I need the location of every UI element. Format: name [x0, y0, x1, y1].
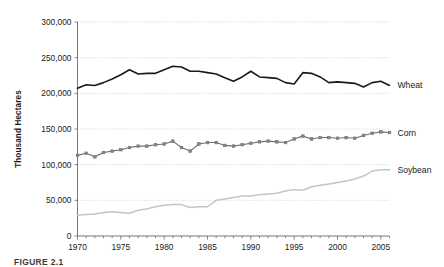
series-marker-corn-2004	[371, 132, 374, 135]
series-marker-corn-1992	[267, 140, 270, 143]
series-marker-corn-1988	[232, 145, 235, 148]
series-marker-corn-1999	[328, 136, 331, 139]
series-marker-corn-1995	[293, 138, 296, 141]
series-marker-corn-2005	[380, 131, 383, 134]
series-label-corn: Corn	[398, 128, 417, 138]
series-marker-corn-2003	[362, 134, 365, 137]
series-label-wheat: Wheat	[398, 80, 423, 90]
x-tick-label-1970: 1970	[68, 242, 87, 252]
series-marker-corn-2000	[336, 137, 339, 140]
series-label-soybean: Soybean	[398, 165, 432, 175]
series-marker-corn-1989	[241, 143, 244, 146]
series-marker-corn-1974	[111, 150, 114, 153]
series-marker-corn-1985	[206, 141, 209, 144]
series-marker-corn-1986	[215, 141, 218, 144]
series-marker-corn-1997	[310, 138, 313, 141]
x-tick-label-1975: 1975	[112, 242, 131, 252]
series-marker-corn-1973	[102, 151, 105, 154]
series-marker-corn-1998	[319, 136, 322, 139]
series-marker-corn-1994	[284, 141, 287, 144]
series-marker-corn-1975	[120, 148, 123, 151]
x-tick-label-2005: 2005	[372, 242, 391, 252]
series-marker-corn-1991	[258, 141, 261, 144]
series-marker-corn-1987	[224, 144, 227, 147]
y-tick-label-100000: 100,000	[41, 160, 72, 170]
y-axis-title: Thousand Hectares	[14, 90, 23, 168]
x-tick-label-1990: 1990	[242, 242, 261, 252]
series-marker-corn-1978	[146, 145, 149, 148]
series-marker-corn-1993	[276, 141, 279, 144]
series-marker-corn-2001	[345, 136, 348, 139]
series-marker-corn-1970	[76, 154, 79, 157]
series-marker-corn-1981	[172, 140, 175, 143]
x-tick-label-1980: 1980	[155, 242, 174, 252]
y-tick-label-150000: 150,000	[41, 124, 72, 134]
figure-container: 050,000100,000150,000200,000250,000300,0…	[0, 0, 444, 267]
series-marker-corn-1971	[85, 152, 88, 155]
y-tick-label-250000: 250,000	[41, 53, 72, 63]
y-tick-label-0: 0	[67, 231, 72, 241]
series-marker-corn-1976	[128, 146, 131, 149]
series-marker-corn-1980	[163, 143, 166, 146]
series-marker-corn-2002	[354, 137, 357, 140]
series-marker-corn-1982	[180, 146, 183, 149]
figure-caption: FIGURE 2.1	[14, 257, 64, 267]
series-marker-corn-1972	[94, 156, 97, 159]
y-tick-label-50000: 50,000	[46, 195, 72, 205]
series-marker-corn-1996	[302, 135, 305, 138]
y-tick-label-200000: 200,000	[41, 88, 72, 98]
series-marker-corn-1983	[189, 150, 192, 153]
series-marker-corn-2006	[388, 131, 391, 134]
series-marker-corn-1977	[137, 145, 140, 148]
x-tick-label-1985: 1985	[198, 242, 217, 252]
series-marker-corn-1984	[198, 143, 201, 146]
x-tick-label-2000: 2000	[328, 242, 347, 252]
x-tick-label-1995: 1995	[285, 242, 304, 252]
series-marker-corn-1979	[154, 143, 157, 146]
y-tick-label-300000: 300,000	[41, 17, 72, 27]
series-marker-corn-1990	[250, 142, 253, 145]
line-chart: 050,000100,000150,000200,000250,000300,0…	[0, 0, 444, 267]
